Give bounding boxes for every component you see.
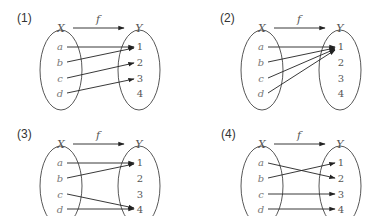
- domain-element: d: [57, 88, 63, 99]
- function-label: f: [95, 13, 102, 26]
- codomain-element: 1: [137, 157, 143, 168]
- domain-element: d: [57, 204, 63, 215]
- panel-3: (3) X Y f a b c d 1 2 3 4: [17, 127, 160, 216]
- mapping-arrow-b-1: [268, 48, 335, 62]
- mapping-arrow-d-1: [268, 50, 335, 93]
- panel-2: (2) X Y f a b c d 1 2 3 4: [220, 11, 361, 110]
- panel-label: (3): [17, 127, 32, 141]
- codomain-set-label: Y: [135, 22, 144, 35]
- mapping-arrow-b-1: [67, 48, 134, 62]
- domain-element: c: [258, 189, 264, 200]
- domain-element: d: [258, 88, 264, 99]
- function-label: f: [95, 129, 102, 142]
- codomain-element: 2: [338, 173, 344, 184]
- codomain-element: 1: [137, 41, 143, 52]
- domain-element: a: [57, 157, 63, 168]
- mapping-arrow-c-2: [67, 63, 134, 78]
- codomain-element: 3: [137, 73, 143, 84]
- panel-4: (4) X Y f a b c d 1 2 3 4: [221, 127, 361, 216]
- codomain-set-label: Y: [336, 22, 345, 35]
- domain-set-label: X: [56, 22, 66, 35]
- mapping-arrow-d-3: [67, 79, 134, 93]
- domain-element: b: [57, 173, 63, 184]
- panel-label: (4): [221, 127, 236, 141]
- domain-element: b: [258, 173, 264, 184]
- codomain-element: 3: [338, 73, 344, 84]
- codomain-set-label: Y: [135, 138, 144, 151]
- codomain-element: 4: [137, 204, 143, 215]
- domain-element: c: [57, 189, 63, 200]
- codomain-element: 4: [338, 88, 344, 99]
- domain-set-label: X: [257, 22, 267, 35]
- mapping-arrow-c-4: [67, 194, 134, 208]
- mapping-arrow-b-1: [67, 164, 134, 178]
- codomain-element: 2: [137, 57, 143, 68]
- domain-element: c: [57, 73, 63, 84]
- mapping-arrow-c-1: [268, 49, 335, 78]
- codomain-element: 1: [338, 157, 344, 168]
- domain-set-label: X: [257, 138, 267, 151]
- codomain-set-label: Y: [336, 138, 345, 151]
- codomain-element: 3: [338, 189, 344, 200]
- panel-label: (1): [17, 11, 32, 25]
- domain-element: a: [57, 41, 63, 52]
- domain-element: a: [258, 157, 264, 168]
- codomain-element: 2: [338, 57, 344, 68]
- codomain-element: 1: [338, 41, 344, 52]
- codomain-element: 4: [137, 88, 143, 99]
- domain-element: d: [258, 204, 264, 215]
- mapping-diagrams: (1) X Y f a b c d 1 2 3 4 (2) X Y f a b …: [0, 0, 372, 216]
- panel-label: (2): [220, 11, 235, 25]
- domain-element: b: [57, 57, 63, 68]
- domain-element: b: [258, 57, 264, 68]
- codomain-element: 2: [137, 173, 143, 184]
- domain-set-label: X: [56, 138, 66, 151]
- domain-element: c: [258, 73, 264, 84]
- function-label: f: [296, 13, 303, 26]
- codomain-element: 4: [338, 204, 344, 215]
- panel-1: (1) X Y f a b c d 1 2 3 4: [17, 11, 160, 110]
- domain-element: a: [258, 41, 264, 52]
- codomain-element: 3: [137, 189, 143, 200]
- function-label: f: [296, 129, 303, 142]
